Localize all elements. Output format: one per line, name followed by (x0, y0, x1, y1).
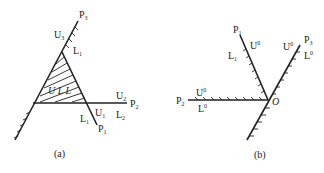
label-a-p3: P3 (79, 10, 88, 21)
label-a-u1: U1 (95, 108, 105, 119)
label-b-u2: U0 (196, 88, 206, 99)
caption-a: (a) (54, 148, 65, 159)
label-a-l1-bottom: L1 (80, 114, 89, 125)
label-a-inner: U L L (48, 86, 71, 96)
label-a-l2: L2 (116, 110, 125, 121)
label-b-p3: P3 (304, 35, 313, 46)
caption-b: (b) (254, 149, 266, 160)
label-b-p2: P2 (176, 96, 185, 107)
label-b-l1: L1 (228, 51, 237, 62)
label-a-u3: U3 (54, 30, 64, 41)
label-b-u1: U0 (250, 41, 260, 52)
label-b-u3: U0 (283, 42, 293, 53)
label-a-l1-top: L1 (73, 46, 82, 57)
label-b-p1: P1 (233, 25, 242, 36)
label-b-l3: L0 (304, 51, 313, 62)
label-a-p2: P2 (130, 99, 139, 110)
label-b-origin: O (272, 97, 279, 107)
label-b-l2: L0 (198, 104, 207, 115)
label-a-u2: U2 (116, 91, 126, 102)
figure-a-lines (14, 21, 127, 140)
label-a-p1: P1 (98, 124, 107, 135)
